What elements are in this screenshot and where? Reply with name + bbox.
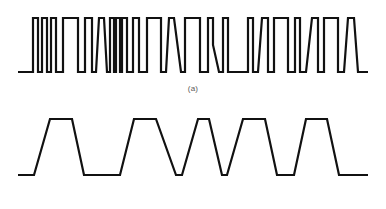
waveform-b-path [18, 119, 368, 175]
waveform-b-svg [0, 105, 386, 209]
waveform-panel-b: (b) [0, 105, 386, 209]
waveform-a-path [18, 18, 368, 72]
panel-a-caption: (a) [0, 84, 386, 93]
figure-root: (a) (b) [0, 0, 386, 209]
waveform-panel-a: (a) [0, 0, 386, 105]
